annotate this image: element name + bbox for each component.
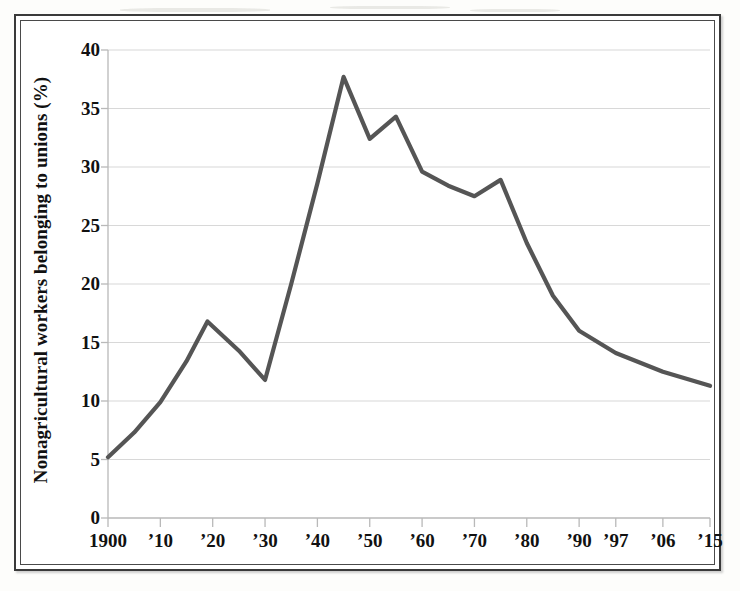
y-tick-label: 35	[58, 98, 100, 120]
x-tick-label: ’70	[462, 530, 487, 552]
series-line	[108, 77, 710, 457]
x-tick-label: ’06	[650, 530, 675, 552]
x-tick-label: ’97	[603, 530, 628, 552]
x-tick-label: ’50	[357, 530, 382, 552]
x-tick-marks	[108, 518, 710, 527]
y-tick-label: 0	[58, 507, 100, 529]
gridlines	[108, 50, 710, 460]
x-tick-label: ’80	[514, 530, 539, 552]
y-tick-label: 30	[58, 156, 100, 178]
y-tick-label: 25	[58, 215, 100, 237]
x-tick-label: ’20	[200, 530, 225, 552]
x-tick-label: 1900	[89, 530, 127, 552]
x-tick-label: ’90	[566, 530, 591, 552]
y-tick-label: 20	[58, 273, 100, 295]
y-tick-label: 5	[58, 449, 100, 471]
x-tick-label: ’10	[148, 530, 173, 552]
data-series-group	[108, 77, 710, 457]
figure-root: Nonagricultural workers belonging to uni…	[0, 0, 740, 591]
y-tick-label: 10	[58, 390, 100, 412]
x-tick-label: ’30	[252, 530, 277, 552]
x-tick-label: ’40	[305, 530, 330, 552]
y-tick-label: 15	[58, 332, 100, 354]
y-tick-marks	[101, 50, 108, 518]
line-chart-svg	[0, 0, 740, 591]
x-tick-label: ’15	[697, 530, 722, 552]
x-tick-label: ’60	[409, 530, 434, 552]
plot-area: Nonagricultural workers belonging to uni…	[0, 0, 740, 591]
y-tick-label: 40	[58, 39, 100, 61]
